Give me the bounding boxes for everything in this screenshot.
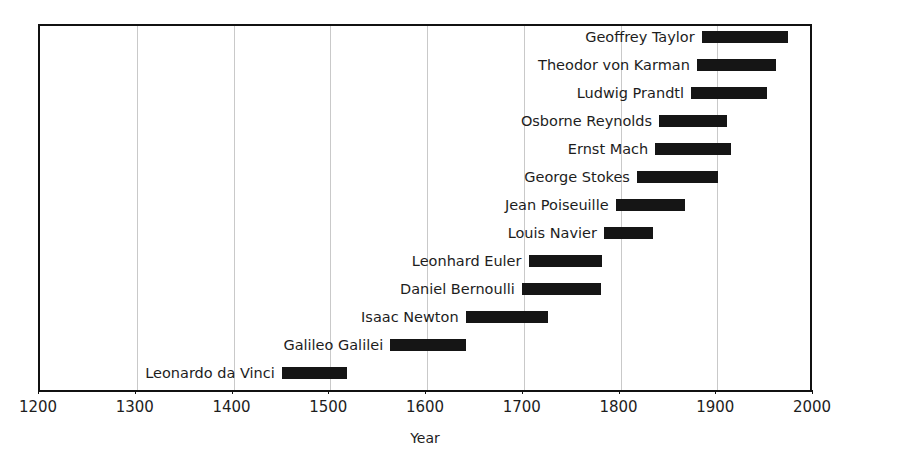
x-tick-mark-2000 (812, 390, 813, 394)
x-axis-title: Year (0, 430, 850, 446)
gridline-1300 (137, 26, 138, 390)
gridline-1600 (427, 26, 428, 390)
gridline-1900 (717, 26, 718, 390)
plot-area (38, 24, 812, 392)
gridline-1700 (524, 26, 525, 390)
x-tick-label-1900: 1900 (675, 398, 755, 416)
gridline-1800 (621, 26, 622, 390)
timeline-chart: Geoffrey TaylorTheodor von KarmanLudwig … (0, 0, 897, 464)
gridline-1400 (234, 26, 235, 390)
x-tick-label-1700: 1700 (482, 398, 562, 416)
x-tick-mark-1200 (38, 390, 39, 394)
x-tick-label-1400: 1400 (192, 398, 272, 416)
x-tick-label-2000: 2000 (772, 398, 852, 416)
x-tick-mark-1400 (232, 390, 233, 394)
x-tick-mark-1300 (135, 390, 136, 394)
x-tick-mark-1700 (522, 390, 523, 394)
x-tick-label-1200: 1200 (0, 398, 78, 416)
x-tick-mark-1500 (328, 390, 329, 394)
x-tick-label-1800: 1800 (579, 398, 659, 416)
x-tick-label-1500: 1500 (288, 398, 368, 416)
x-tick-mark-1600 (425, 390, 426, 394)
x-tick-mark-1800 (619, 390, 620, 394)
x-tick-label-1600: 1600 (385, 398, 465, 416)
x-tick-label-1300: 1300 (95, 398, 175, 416)
x-tick-mark-1900 (715, 390, 716, 394)
gridline-1500 (330, 26, 331, 390)
